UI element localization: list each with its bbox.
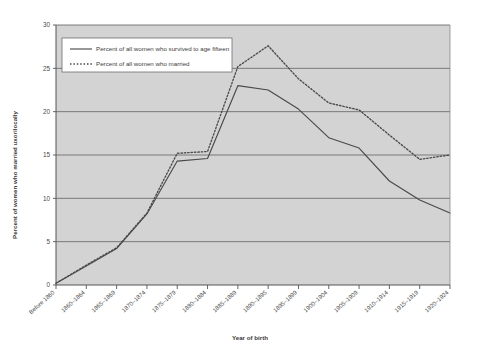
legend-entry-label: Percent of all women who married [96,60,190,67]
y-axis-title: Percent of women who married uxorilocall… [11,110,18,238]
chart-legend: Percent of all women who survived to age… [62,38,232,72]
x-axis-title: Year of birth [232,334,268,341]
y-tick-label: 10 [43,195,51,202]
y-tick-label: 30 [43,21,51,28]
y-tick-label: 20 [43,108,51,115]
y-tick-label: 25 [43,65,51,72]
y-tick-label: 15 [43,151,51,158]
y-tick-label: 5 [46,238,50,245]
y-tick-label: 0 [46,281,50,288]
line-chart: 051015202530 Before 18601860–18641865–18… [0,0,485,359]
chart-container: 051015202530 Before 18601860–18641865–18… [0,0,485,359]
legend-entry-label: Percent of all women who survived to age… [96,45,230,52]
